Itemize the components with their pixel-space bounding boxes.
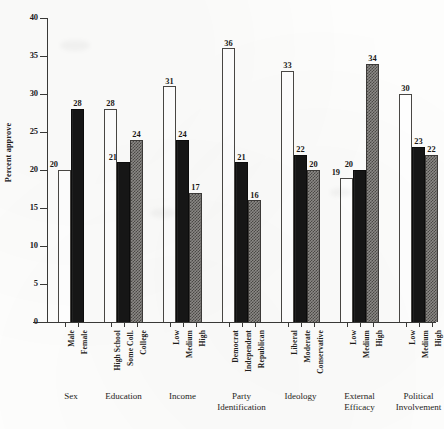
bar-value-label: 19 [332,169,340,177]
x-axis-tick [419,322,420,327]
bar: 23 [412,147,425,322]
y-axis-tick-label: 10 [0,241,38,251]
category-label: Medium [363,330,371,394]
bar-value-label: 21 [109,154,117,162]
x-axis-tick [347,322,348,327]
category-label: Low [350,330,358,394]
bar: 30 [399,94,412,322]
x-axis-tick [229,322,230,327]
category-label: High [199,330,207,394]
y-axis-tick [40,246,47,247]
x-axis-tick [255,322,256,327]
x-axis-tick [301,322,302,327]
x-axis-tick [242,322,243,327]
bar: 16 [248,200,261,322]
y-axis-tick-label-text: 35 [12,51,38,60]
y-axis-tick [40,170,47,171]
category-label: Some Coll. [127,330,135,394]
category-label: Republican [258,330,266,394]
group-title-line: Identification [197,402,287,413]
x-axis-tick [137,322,138,327]
bar-value-label: 22 [296,146,304,154]
bar-value-label: 21 [237,154,245,162]
bar: 20 [58,170,71,322]
y-axis-tick-label-text: 30 [12,89,38,98]
x-axis-tick [288,322,289,327]
bar-value-label: 33 [283,62,291,70]
bar-value-label: 16 [250,192,258,200]
bar: 20 [307,170,320,322]
x-axis-tick [65,322,66,327]
x-axis-tick [432,322,433,327]
category-label: Democrat [232,330,240,394]
category-label: High [376,330,384,394]
bar-value-label: 28 [106,100,114,108]
y-axis-tick-label-text: 15 [12,203,38,212]
bar-value-label: 36 [224,40,232,48]
bar: 21 [235,162,248,322]
x-axis-line [33,322,436,323]
y-axis-tick [40,208,47,209]
category-label: Conservative [317,330,325,394]
bar: 17 [189,193,202,322]
category-label: High School [114,330,122,394]
x-axis-tick [373,322,374,327]
category-label: Male [68,330,76,394]
category-label: Independent [245,330,253,394]
bar-value-label: 24 [178,131,186,139]
bar: 24 [176,140,189,322]
category-label: Low [409,330,417,394]
bar: 22 [425,155,438,322]
y-axis-tick-label-text: 40 [12,13,38,22]
bar-value-label: 20 [345,161,353,169]
category-label: Medium [422,330,430,394]
bar: 28 [104,109,117,322]
bar-value-label: 20 [309,161,317,169]
x-axis-tick [360,322,361,327]
y-axis-tick-label: 40 [0,13,38,23]
bar: 36 [222,48,235,322]
bar: 33 [281,71,294,322]
category-label: Female [81,330,89,394]
bar: 34 [366,64,379,322]
y-axis-tick [40,284,47,285]
bar: 24 [130,140,143,322]
bar-value-label: 28 [73,100,81,108]
y-axis-title: Percent approve [4,68,13,238]
bar: 22 [294,155,307,322]
bar: 20 [353,170,366,322]
plot-area: 2028282124312417362116332220192034302322 [47,18,433,322]
x-axis-tick [406,322,407,327]
group-title-line: Political [374,391,444,402]
category-label: High [435,330,443,394]
category-label: Low [173,330,181,394]
category-label: College [140,330,148,394]
y-axis-tick-label-text: 20 [12,165,38,174]
y-axis-tick-label-text: 25 [12,127,38,136]
y-axis-tick [40,94,47,95]
category-label: Medium [186,330,194,394]
x-axis-tick [314,322,315,327]
x-axis-tick [78,322,79,327]
y-axis-tick-label: 35 [0,51,38,61]
x-axis-tick [196,322,197,327]
x-axis-tick [124,322,125,327]
bar: 19 [340,178,353,322]
y-axis-tick-label-text: 10 [12,241,38,250]
x-axis-tick [111,322,112,327]
bar-chart-figure: 0510152025303540 Percent approve 2028282… [0,0,444,429]
x-axis-tick [183,322,184,327]
bar-value-label: 17 [191,184,199,192]
y-axis-tick [40,56,47,57]
y-axis-line [47,18,48,323]
bar-value-label: 20 [50,161,58,169]
category-label: Moderate [304,330,312,394]
bar-value-label: 30 [401,85,409,93]
bar: 28 [71,109,84,322]
x-axis-tick [170,322,171,327]
y-axis-tick-label: 0 [0,317,38,327]
y-axis-tick-label: 5 [0,279,38,289]
bar: 31 [163,86,176,322]
group-title-line: Involvement [374,402,444,413]
group-title: PoliticalInvolvement [374,391,444,413]
